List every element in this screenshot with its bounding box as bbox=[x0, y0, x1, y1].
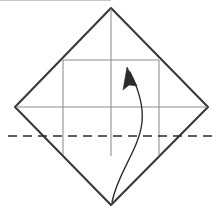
diagram-canvas bbox=[0, 0, 222, 215]
curved-fold-arrow-head bbox=[123, 67, 137, 90]
origami-fold-diagram bbox=[0, 0, 222, 215]
curved-fold-arrow-shaft bbox=[112, 72, 142, 202]
